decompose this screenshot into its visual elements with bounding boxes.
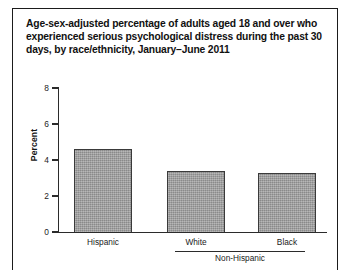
- y-axis-tick: [52, 159, 58, 160]
- y-axis-tick: [52, 123, 58, 124]
- x-axis-label-hispanic: Hispanic: [63, 238, 143, 247]
- y-axis-tick-label: 0: [36, 228, 49, 236]
- y-axis-tick-label: 6: [36, 120, 49, 128]
- y-axis-tick: [52, 231, 58, 232]
- y-axis-tick-label: 4: [36, 156, 49, 164]
- chart-title: Age-sex-adjusted percentage of adults ag…: [26, 17, 322, 57]
- y-axis-tick-label: 8: [36, 84, 49, 92]
- x-axis-label-black: Black: [247, 238, 327, 247]
- chart-title-line-1: Age-sex-adjusted percentage of adults ag…: [26, 18, 317, 29]
- bar-black: [258, 173, 316, 232]
- bar-white: [167, 171, 225, 232]
- group-bracket-non-hispanic: [175, 251, 305, 252]
- chart-title-line-2: experienced serious psychological distre…: [26, 31, 308, 42]
- x-axis-label-white: White: [156, 238, 236, 247]
- y-axis-tick: [52, 87, 58, 88]
- group-bracket-label: Non-Hispanic: [175, 254, 305, 263]
- y-axis-line: [58, 87, 59, 233]
- bar-hispanic: [74, 149, 132, 232]
- y-axis-tick-label: 2: [36, 192, 49, 200]
- y-axis-tick: [52, 195, 58, 196]
